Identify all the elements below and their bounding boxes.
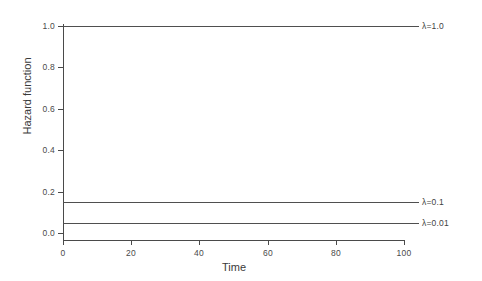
series-line-lambda-1.0	[63, 26, 419, 27]
x-tick-label-60: 60	[248, 248, 288, 258]
series-annotation-lambda-0.01: λ=0.01	[422, 218, 449, 228]
x-axis-title: Time	[63, 261, 405, 273]
x-tick-mark-20	[131, 240, 132, 245]
series-line-lambda-0.01	[63, 223, 419, 224]
y-axis-title: Hazard function	[21, 21, 33, 171]
x-tick-label-20: 20	[111, 248, 151, 258]
y-tick-label-0.0: 0.0	[27, 229, 55, 238]
y-tick-0.2: 0.2	[0, 188, 55, 197]
x-tick-mark-0	[63, 240, 64, 245]
y-tick-0.0: 0.0	[0, 229, 55, 238]
x-tick-label-100: 100	[384, 248, 424, 258]
x-tick-mark-80	[336, 240, 337, 245]
y-tick-mark-0.8	[58, 67, 63, 68]
x-tick-label-0: 0	[43, 248, 83, 258]
series-annotation-lambda-0.1: λ=0.1	[422, 197, 444, 207]
y-tick-label-0.2: 0.2	[27, 188, 55, 197]
y-tick-mark-0.4	[58, 150, 63, 151]
hazard-function-chart: 1.0 0.8 0.6 0.4 0.2 0.0 0 20 40 60 80 10…	[0, 0, 482, 281]
x-axis-line	[63, 240, 405, 241]
y-tick-mark-0.2	[58, 192, 63, 193]
y-tick-mark-0.0	[58, 233, 63, 234]
x-tick-mark-40	[199, 240, 200, 245]
x-tick-mark-100	[404, 240, 405, 245]
x-tick-label-40: 40	[179, 248, 219, 258]
y-axis-line	[63, 24, 64, 241]
series-line-lambda-0.1	[63, 202, 419, 203]
series-annotation-lambda-1.0: λ=1.0	[422, 21, 444, 31]
x-tick-mark-60	[268, 240, 269, 245]
y-tick-mark-0.6	[58, 109, 63, 110]
x-tick-label-80: 80	[316, 248, 356, 258]
